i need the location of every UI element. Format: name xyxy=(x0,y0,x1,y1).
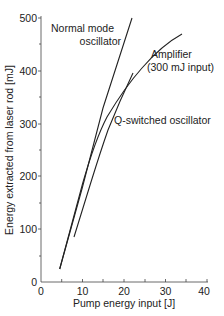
svg-text:Normal mode: Normal mode xyxy=(51,22,114,34)
svg-text:400: 400 xyxy=(19,65,37,77)
svg-text:300: 300 xyxy=(19,118,37,130)
svg-text:0: 0 xyxy=(31,276,37,288)
svg-text:100: 100 xyxy=(19,223,37,235)
x-axis xyxy=(41,279,208,282)
svg-text:(300 mJ input): (300 mJ input) xyxy=(147,61,214,73)
svg-text:Amplifier: Amplifier xyxy=(151,48,192,60)
svg-text:30: 30 xyxy=(160,285,172,297)
x-axis-label: Pump energy input [J] xyxy=(73,297,175,309)
line-q-switched xyxy=(74,73,133,237)
x-tick-labels: 0 10 20 30 40 xyxy=(38,285,210,297)
svg-text:40: 40 xyxy=(198,285,210,297)
chart: 500 400 300 200 100 0 0 10 20 30 40 Pump… xyxy=(0,0,224,316)
svg-text:20: 20 xyxy=(118,285,130,297)
svg-text:oscillator: oscillator xyxy=(80,35,122,47)
svg-text:200: 200 xyxy=(19,170,37,182)
y-axis-label: Energy extracted from laser rod [mJ] xyxy=(3,65,15,235)
svg-text:500: 500 xyxy=(19,12,37,24)
y-axis xyxy=(38,16,41,282)
svg-text:0: 0 xyxy=(38,285,44,297)
svg-text:Q-switched oscillator: Q-switched oscillator xyxy=(114,114,211,126)
svg-text:10: 10 xyxy=(77,285,89,297)
y-tick-labels: 500 400 300 200 100 0 xyxy=(19,12,37,288)
